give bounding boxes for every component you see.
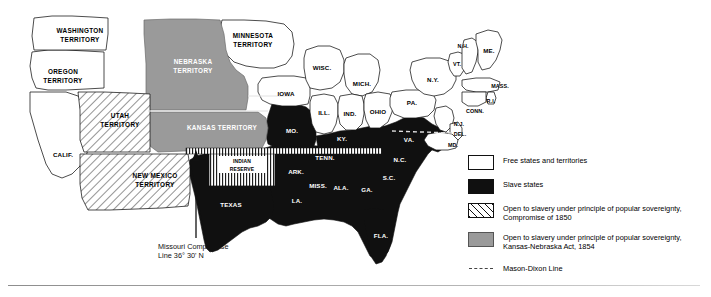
region-utah-territory <box>78 92 150 152</box>
legend-swatch-gray-icon <box>468 232 494 247</box>
legend-item-slave-states: Slave states <box>468 179 706 194</box>
legend-item-popular-sovereignty-1850: Open to slavery under principle of popul… <box>468 203 706 223</box>
legend-free-line1: Free states and territories <box>503 156 587 165</box>
region-illinois <box>310 94 338 134</box>
legend-ps1854-line2: Kansas-Nebraska Act, 1854 <box>503 242 595 251</box>
legend-swatch-free-icon <box>468 155 494 170</box>
legend-swatch-hatch-icon <box>468 203 494 218</box>
legend-slave-line1: Slave states <box>503 180 543 189</box>
legend-mason-dixon-line1: Mason-Dixon Line <box>503 264 563 273</box>
region-florida <box>364 208 392 264</box>
region-maine <box>476 30 502 70</box>
legend-ps1850-line1: Open to slavery under principle of popul… <box>503 204 682 213</box>
legend-ps1854-line1: Open to slavery under principle of popul… <box>503 233 682 242</box>
legend-ps1850-line2: Compromise of 1850 <box>503 213 572 222</box>
region-michigan <box>344 54 380 96</box>
figure-baseline-rule <box>8 285 700 286</box>
region-newhampshire <box>462 38 478 74</box>
legend-item-popular-sovereignty-1854: Open to slavery under principle of popul… <box>468 232 706 252</box>
missouri-compromise-annotation-line1: Missouri Compromise <box>158 242 229 251</box>
region-washington-territory <box>32 16 108 50</box>
map-legend: Free states and territories Slave states… <box>468 155 706 276</box>
legend-swatch-slave-icon <box>468 179 494 194</box>
region-missouri <box>266 103 316 147</box>
region-iowa <box>258 76 310 106</box>
region-kansas-territory <box>148 112 268 152</box>
missouri-compromise-band <box>186 148 382 154</box>
map-landmass-group <box>30 16 502 264</box>
indian-reserve-label-plate <box>218 156 266 173</box>
indian-reserve-region <box>209 152 275 186</box>
region-minnesota-territory <box>220 20 294 68</box>
region-indiana <box>338 94 364 130</box>
legend-label-popular-sovereignty-1850: Open to slavery under principle of popul… <box>503 203 682 223</box>
legend-label-slave-states: Slave states <box>503 179 543 189</box>
legend-label-mason-dixon: Mason-Dixon Line <box>503 263 563 273</box>
region-massachusetts <box>462 78 500 92</box>
legend-swatch-dashed-line-icon <box>468 261 494 276</box>
region-connecticut <box>462 92 486 106</box>
region-rhodeisland <box>486 92 496 104</box>
legend-label-popular-sovereignty-1854: Open to slavery under principle of popul… <box>503 232 682 252</box>
region-new-mexico-territory <box>80 154 190 210</box>
region-oregon-territory <box>30 50 104 90</box>
region-wisconsin <box>304 46 344 90</box>
legend-item-free-states: Free states and territories <box>468 155 706 170</box>
legend-item-mason-dixon: Mason-Dixon Line <box>468 261 706 276</box>
region-ohio <box>364 92 394 128</box>
legend-label-free-states: Free states and territories <box>503 155 587 165</box>
state-label-conn: CONN. <box>466 108 484 114</box>
missouri-compromise-annotation-line2: Line 36° 30' N <box>158 251 204 260</box>
